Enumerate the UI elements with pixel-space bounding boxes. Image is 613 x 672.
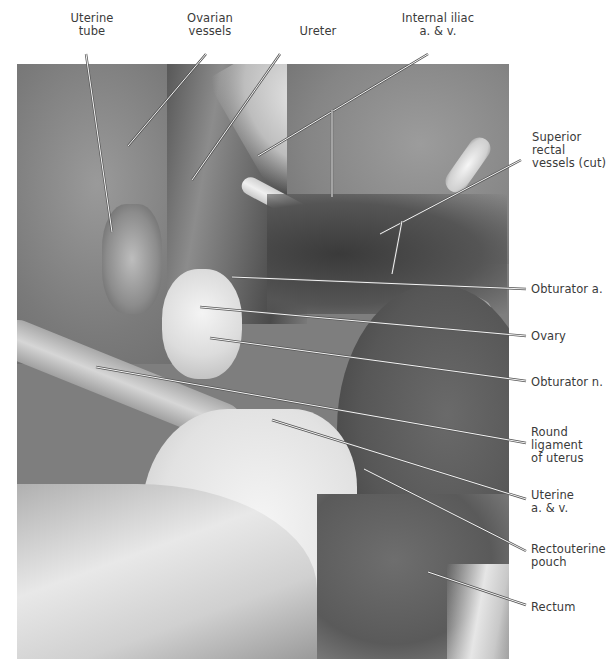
label-obturator-artery: Obturator a. [531, 283, 603, 296]
anatomy-figure: Uterine tubeOvarian vesselsUreterInterna… [0, 0, 613, 672]
label-ovarian-vessels: Ovarian vessels [187, 12, 233, 38]
label-uterine-tube: Uterine tube [71, 12, 114, 38]
uterine-tube-region [102, 204, 162, 314]
dissection-photograph [17, 64, 509, 659]
light-streak-region [447, 564, 509, 659]
label-rectum: Rectum [531, 601, 575, 614]
label-ovary: Ovary [531, 330, 566, 343]
label-rectouterine-pouch: Rectouterine pouch [531, 543, 606, 569]
label-uterine-vessels: Uterine a. & v. [531, 489, 574, 515]
label-round-ligament: Round ligament of uterus [531, 426, 584, 465]
label-obturator-nerve: Obturator n. [531, 376, 603, 389]
label-superior-rectal-vessels: Superior rectal vessels (cut) [532, 131, 606, 170]
label-ureter: Ureter [300, 25, 337, 38]
label-internal-iliac: Internal iliac a. & v. [402, 12, 474, 38]
ovary-region [162, 269, 242, 379]
